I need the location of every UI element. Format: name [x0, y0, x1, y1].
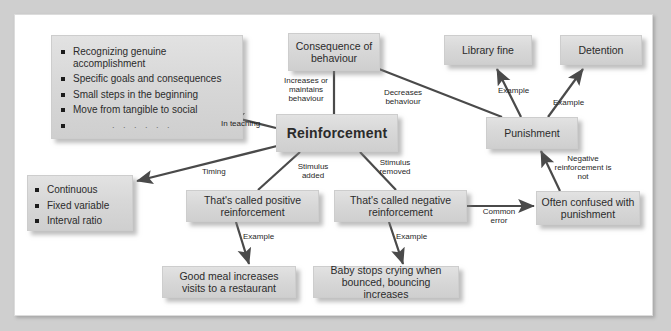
- node-label: Often confused with punishment: [537, 196, 639, 220]
- node-label: Good meal increases visits to a restaura…: [163, 270, 295, 294]
- node-reinforcement[interactable]: Reinforcement: [276, 114, 398, 152]
- list-item: Continuous: [34, 184, 109, 196]
- node-good-meal-example[interactable]: Good meal increases visits to a restaura…: [162, 266, 296, 298]
- list-item: Move from tangible to social: [60, 104, 234, 116]
- node-consequence-of-behaviour[interactable]: Consequence of behaviour: [288, 33, 380, 71]
- diagram-frame: Recognizing genuine accomplishment Speci…: [14, 14, 653, 316]
- edge-label-common-error: Common error: [476, 208, 522, 226]
- list-continuation: . . . . . .: [60, 120, 234, 130]
- node-label: Baby stops crying when bounced, bouncing…: [314, 264, 458, 300]
- node-teaching-tips[interactable]: Recognizing genuine accomplishment Speci…: [51, 35, 243, 139]
- node-library-fine[interactable]: Library fine: [444, 35, 532, 65]
- edge-punishment-detention: [548, 69, 583, 117]
- node-label: Library fine: [458, 44, 518, 56]
- node-often-confused-with-punishment[interactable]: Often confused with punishment: [536, 191, 640, 225]
- list-item: Fixed variable: [34, 200, 109, 212]
- edge-positive-goodmeal: [236, 222, 249, 264]
- teaching-tips-list: Recognizing genuine accomplishment Speci…: [60, 46, 234, 134]
- node-punishment[interactable]: Punishment: [486, 117, 578, 149]
- edge-label-stimulus-added: Stimulus added: [291, 163, 335, 181]
- node-timing-list[interactable]: Continuous Fixed variable Interval ratio: [27, 175, 133, 231]
- node-label: That's called negative reinforcement: [335, 194, 466, 218]
- node-label: Consequence of behaviour: [289, 40, 379, 64]
- edge-label-example-baby: Example: [396, 233, 427, 242]
- node-detention[interactable]: Detention: [560, 35, 642, 65]
- edge-label-increases-or-maintains: Increases or maintains behaviour: [278, 77, 334, 104]
- node-label: Punishment: [500, 127, 563, 139]
- list-item: Small steps in the beginning: [60, 89, 234, 101]
- diagram-canvas: Recognizing genuine accomplishment Speci…: [15, 15, 652, 315]
- edge-label-example-good-meal: Example: [243, 233, 274, 242]
- node-label: Reinforcement: [283, 125, 392, 141]
- edge-label-timing: Timing: [202, 168, 226, 177]
- list-item: Specific goals and consequences: [60, 73, 234, 85]
- edge-label-in-teaching: In teaching: [221, 120, 260, 129]
- timing-list: Continuous Fixed variable Interval ratio: [34, 184, 109, 231]
- edge-label-example-library-fine: Example: [498, 87, 529, 96]
- node-label: That's called positive reinforcement: [187, 194, 318, 218]
- list-item: Recognizing genuine accomplishment: [60, 46, 234, 69]
- screenshot-page: Recognizing genuine accomplishment Speci…: [0, 0, 671, 331]
- edge-label-negative-reinforcement-is-not: Negative reinforcement is not: [550, 155, 616, 182]
- edge-label-decreases-behaviour: Decreases behaviour: [375, 89, 431, 107]
- edge-label-example-detention: Example: [553, 99, 584, 108]
- list-item: Interval ratio: [34, 215, 109, 227]
- node-baby-stops-example[interactable]: Baby stops crying when bounced, bouncing…: [313, 266, 459, 298]
- edge-label-stimulus-removed: Stimulus removed: [370, 159, 420, 177]
- node-label: Detention: [575, 44, 628, 56]
- edge-negative-baby: [389, 222, 403, 264]
- node-positive-reinforcement[interactable]: That's called positive reinforcement: [186, 190, 319, 222]
- node-negative-reinforcement[interactable]: That's called negative reinforcement: [334, 190, 467, 222]
